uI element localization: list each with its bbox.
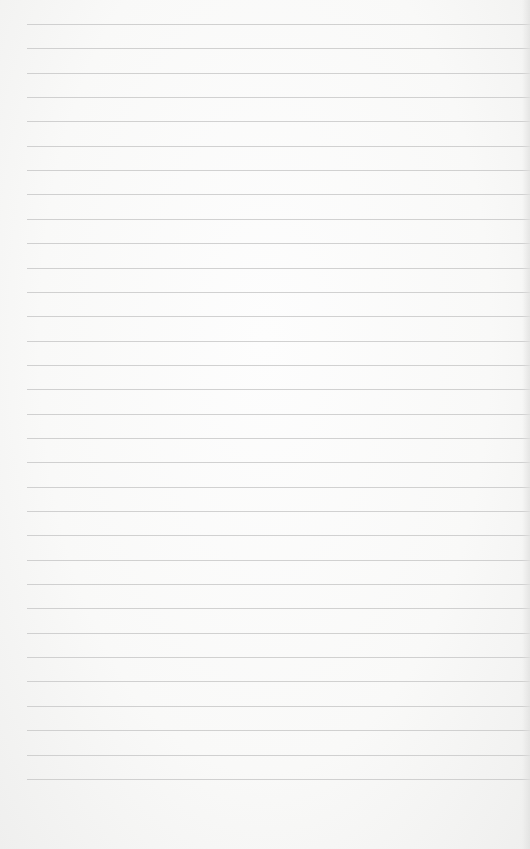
ruled-line [27,243,530,244]
ruled-line [27,316,530,317]
ruled-line [27,365,530,366]
ruled-line [27,48,530,49]
ruled-line [27,755,530,756]
ruled-line [27,438,530,439]
ruled-line [27,462,530,463]
ruled-line [27,170,530,171]
ruled-line [27,341,530,342]
ruled-line [27,730,530,731]
ruled-line [27,292,530,293]
ruled-line [27,560,530,561]
ruled-line [27,511,530,512]
ruled-line [27,146,530,147]
ruled-line [27,121,530,122]
ruled-line [27,681,530,682]
ruled-line [27,779,530,780]
ruled-line [27,73,530,74]
ruled-line [27,657,530,658]
ruled-line [27,535,530,536]
ruled-line [27,268,530,269]
ruled-line [27,97,530,98]
ruled-line [27,608,530,609]
ruled-line [27,633,530,634]
lined-paper-sheet [0,0,530,849]
ruled-line [27,584,530,585]
ruled-line [27,194,530,195]
ruled-line [27,24,530,25]
ruled-line [27,706,530,707]
ruled-line [27,219,530,220]
ruled-line [27,389,530,390]
ruled-line [27,487,530,488]
ruled-line [27,414,530,415]
